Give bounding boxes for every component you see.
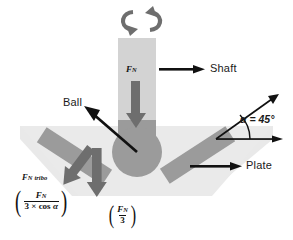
formula-close-paren: ) — [61, 186, 67, 216]
shaft-callout-arrow-icon — [159, 65, 205, 74]
diagram-canvas: FN Shaft Ball Plate α = 45° FN tribo ( F… — [0, 0, 293, 240]
tribo-force-label: FN tribo — [22, 172, 47, 182]
normal-force-subscript: N — [132, 66, 137, 73]
axial-numerator: FN — [116, 205, 129, 214]
tribo-force-subscript: N — [28, 174, 33, 181]
axial-fraction: FN 3 — [116, 205, 129, 225]
shaft-label: Shaft — [210, 62, 237, 74]
normal-force-label: FN — [126, 64, 137, 74]
formula-open-paren: ( — [15, 186, 21, 216]
tribo-numerator: FN — [35, 191, 48, 200]
axial-force-formula: ( FN 3 ) — [107, 202, 138, 228]
axial-open-paren: ( — [109, 202, 114, 228]
angle-label: α = 45° — [240, 113, 274, 125]
axial-denominator: 3 — [119, 215, 126, 225]
tribo-force-formula: ( FN 3 × cos α ) — [13, 186, 69, 216]
axial-close-paren: ) — [131, 202, 136, 228]
tribo-fraction: FN 3 × cos α — [24, 191, 59, 211]
plate-label: Plate — [246, 159, 272, 171]
tribo-force-word: tribo — [35, 174, 48, 181]
tribo-denominator: 3 × cos α — [24, 201, 59, 211]
ball-label: Ball — [63, 96, 82, 108]
